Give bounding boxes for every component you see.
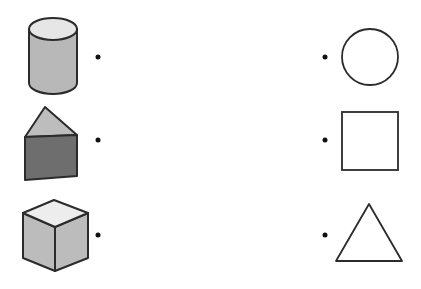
right-dot-1[interactable]	[323, 55, 328, 60]
left-dot-3[interactable]	[96, 233, 101, 238]
right-dot-2[interactable]	[323, 138, 328, 143]
left-dot-1[interactable]	[96, 55, 101, 60]
right-dot-3[interactable]	[323, 233, 328, 238]
cylinder-shape	[29, 18, 77, 94]
triangle-shape	[336, 204, 402, 261]
matching-worksheet	[0, 0, 421, 289]
triangular-prism-shape	[25, 107, 77, 180]
cube-shape	[23, 200, 88, 271]
left-dot-2[interactable]	[96, 138, 101, 143]
circle-shape	[342, 29, 398, 85]
square-shape	[342, 112, 398, 170]
